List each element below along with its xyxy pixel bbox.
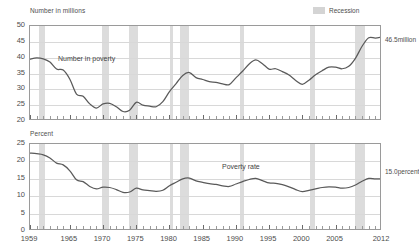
axis-tick — [136, 225, 137, 229]
axis-tick — [209, 116, 210, 119]
axis-tick — [243, 226, 244, 229]
axis-tick — [282, 116, 283, 119]
axis-tick — [183, 226, 184, 229]
axis-tick — [163, 116, 164, 119]
axis-tick — [37, 116, 38, 119]
y-tick-label: 25 — [3, 138, 25, 147]
axis-tick — [302, 225, 303, 229]
y-tick-label: 50 — [3, 20, 25, 29]
axis-tick — [223, 116, 224, 119]
recession-swatch-icon — [313, 7, 325, 14]
axis-tick — [169, 115, 170, 119]
axis-tick — [76, 116, 77, 119]
axis-tick — [156, 116, 157, 119]
poverty-rate-end-value-label: 15.0percent — [385, 168, 419, 175]
axis-tick — [329, 116, 330, 119]
axis-tick — [302, 115, 303, 119]
axis-tick — [196, 226, 197, 229]
axis-tick — [203, 225, 204, 229]
x-tick-label: 1975 — [127, 234, 144, 243]
axis-tick — [163, 226, 164, 229]
axis-tick — [296, 226, 297, 229]
axis-tick — [236, 225, 237, 229]
top-chart-plot-area — [29, 25, 381, 120]
axis-tick — [369, 226, 370, 229]
axis-tick — [289, 116, 290, 119]
axis-tick — [336, 115, 337, 119]
axis-tick — [249, 226, 250, 229]
axis-tick — [30, 115, 31, 119]
axis-tick — [176, 226, 177, 229]
axis-tick — [136, 115, 137, 119]
axis-tick — [57, 226, 58, 229]
axis-tick — [342, 226, 343, 229]
axis-tick — [43, 116, 44, 119]
axis-tick — [269, 115, 270, 119]
axis-tick — [116, 226, 117, 229]
x-tick-label: 1985 — [193, 234, 210, 243]
axis-tick — [342, 116, 343, 119]
axis-tick — [236, 115, 237, 119]
x-tick-label: 1995 — [260, 234, 277, 243]
axis-tick — [289, 226, 290, 229]
axis-tick — [150, 226, 151, 229]
axis-tick — [316, 226, 317, 229]
x-tick-label: 1970 — [94, 234, 111, 243]
axis-tick — [355, 226, 356, 229]
x-tick-label: 2005 — [326, 234, 343, 243]
axis-tick — [103, 115, 104, 119]
recession-legend-label: Recession — [329, 7, 359, 14]
axis-tick — [63, 226, 64, 229]
axis-tick — [362, 226, 363, 229]
axis-tick — [176, 116, 177, 119]
axis-tick — [329, 226, 330, 229]
y-tick-label: 5 — [3, 208, 25, 217]
axis-tick — [309, 226, 310, 229]
x-tick-label: 2012 — [373, 234, 390, 243]
axis-tick — [37, 226, 38, 229]
x-tick-label: 1980 — [160, 234, 177, 243]
axis-tick — [83, 226, 84, 229]
axis-tick — [50, 116, 51, 119]
axis-tick — [322, 116, 323, 119]
axis-tick — [50, 226, 51, 229]
top-axis-ticks — [30, 115, 380, 119]
x-tick-label: 1990 — [227, 234, 244, 243]
axis-tick — [183, 116, 184, 119]
y-tick-label: 45 — [3, 36, 25, 45]
axis-tick — [355, 116, 356, 119]
axis-tick — [189, 226, 190, 229]
axis-tick — [256, 226, 257, 229]
axis-tick — [43, 226, 44, 229]
bottom-axis-ticks — [30, 225, 380, 229]
axis-tick — [130, 226, 131, 229]
recession-legend: Recession — [313, 7, 359, 14]
axis-tick — [375, 116, 376, 119]
axis-tick — [262, 116, 263, 119]
y-tick-label: 15 — [3, 173, 25, 182]
axis-tick — [349, 116, 350, 119]
y-tick-label: 40 — [3, 52, 25, 61]
top-chart-axis-title: Number in millions — [30, 7, 85, 14]
axis-tick — [375, 226, 376, 229]
axis-tick — [70, 115, 71, 119]
axis-tick — [96, 226, 97, 229]
axis-tick — [76, 226, 77, 229]
axis-tick — [296, 116, 297, 119]
axis-tick — [189, 116, 190, 119]
axis-tick — [262, 226, 263, 229]
axis-tick — [30, 225, 31, 229]
y-tick-label: 0 — [3, 225, 25, 234]
axis-tick — [143, 116, 144, 119]
bottom-chart-panel: 0510152025 19591965197019751980198519901… — [29, 143, 381, 230]
axis-tick — [70, 225, 71, 229]
axis-tick — [276, 226, 277, 229]
axis-tick — [369, 116, 370, 119]
axis-tick — [116, 116, 117, 119]
axis-tick — [130, 116, 131, 119]
axis-tick — [243, 116, 244, 119]
axis-tick — [229, 226, 230, 229]
axis-tick — [90, 116, 91, 119]
y-tick-label: 20 — [3, 115, 25, 124]
axis-tick — [309, 116, 310, 119]
